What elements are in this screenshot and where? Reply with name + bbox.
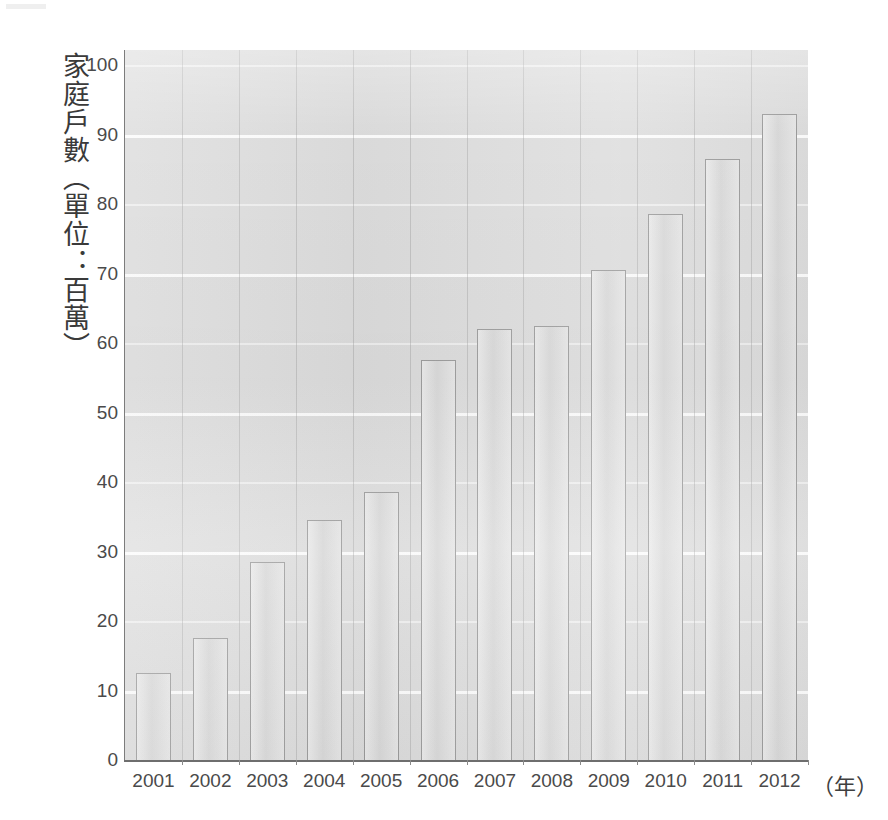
bar-shading [592,271,625,760]
bar-slot-2001 [136,50,171,760]
x-tickmark-2006 [467,760,468,765]
bar-slot-2010 [648,50,683,760]
x-tickmark-2011 [751,760,752,765]
x-tick-label-2008: 2008 [531,770,573,792]
category-separator [410,50,411,760]
x-tickmark-2003 [296,760,297,765]
y-tick-label-80: 80 [78,193,118,215]
bar-shading [649,215,682,760]
x-tickmark-2009 [637,760,638,765]
category-separator [694,50,695,760]
bar-2009[interactable] [591,270,626,760]
x-tickmark-2001 [182,760,183,765]
bar-shading [194,639,227,760]
x-tick-label-2012: 2012 [758,770,800,792]
bar-slot-2004 [307,50,342,760]
y-tick-label-50: 50 [78,402,118,424]
bar-2010[interactable] [648,214,683,760]
x-tick-label-2004: 2004 [303,770,345,792]
y-tick-label-100: 100 [78,54,118,76]
x-tick-label-2003: 2003 [246,770,288,792]
x-tick-label-2006: 2006 [417,770,459,792]
bar-2004[interactable] [307,520,342,760]
category-separator [182,50,183,760]
bar-2001[interactable] [136,673,171,760]
y-tick-label-60: 60 [78,332,118,354]
y-tick-label-90: 90 [78,124,118,146]
bar-shading [137,674,170,760]
bar-shading [535,327,568,760]
x-tick-label-2002: 2002 [189,770,231,792]
y-tick-label-10: 10 [78,680,118,702]
bar-slot-2003 [250,50,285,760]
category-separator [580,50,581,760]
bar-2011[interactable] [705,159,740,760]
bar-2002[interactable] [193,638,228,760]
bar-2003[interactable] [250,562,285,760]
bar-slot-2002 [193,50,228,760]
bar-shading [478,330,511,760]
x-tickmark-2012 [808,760,809,765]
x-tickmark-2010 [694,760,695,765]
bar-2005[interactable] [364,492,399,760]
category-separator [467,50,468,760]
bar-slot-2009 [591,50,626,760]
category-separator [239,50,240,760]
x-tick-label-2005: 2005 [360,770,402,792]
bar-slot-2005 [364,50,399,760]
bar-shading [706,160,739,760]
y-tick-label-0: 0 [78,749,118,771]
x-tickmark-2002 [239,760,240,765]
bar-shading [365,493,398,760]
category-separator [296,50,297,760]
bar-slot-2011 [705,50,740,760]
bar-slot-2006 [421,50,456,760]
bar-shading [763,115,796,760]
bar-shading [308,521,341,760]
bar-slot-2007 [477,50,512,760]
x-tick-label-2010: 2010 [645,770,687,792]
bar-slot-2012 [762,50,797,760]
bar-2006[interactable] [421,360,456,760]
y-tick-label-40: 40 [78,471,118,493]
x-tickmark-2004 [353,760,354,765]
plot-area [125,50,808,760]
bar-shading [422,361,455,760]
x-tickmark-2005 [410,760,411,765]
y-tick-label-70: 70 [78,263,118,285]
bar-2012[interactable] [762,114,797,760]
y-tick-label-30: 30 [78,541,118,563]
y-axis-tick-labels: 0102030405060708090100 [72,0,118,820]
x-axis-unit-label: （年） [812,768,878,800]
bar-2008[interactable] [534,326,569,760]
category-separator [751,50,752,760]
x-axis-tick-labels: 2001200220032004200520062007200820092010… [125,770,808,804]
x-tickmark-2008 [580,760,581,765]
x-tick-label-2009: 2009 [588,770,630,792]
category-separator [353,50,354,760]
x-tick-label-2001: 2001 [132,770,174,792]
bar-slot-2008 [534,50,569,760]
x-tickmark-2007 [523,760,524,765]
x-tick-label-2011: 2011 [702,770,743,792]
category-separator [523,50,524,760]
bar-chart-figure: 家庭戶數（單位：百萬） 0102030405060708090100 20012… [0,0,888,820]
category-separator [637,50,638,760]
y-tick-label-20: 20 [78,610,118,632]
x-tick-label-2007: 2007 [474,770,516,792]
bar-shading [251,563,284,760]
bar-2007[interactable] [477,329,512,760]
